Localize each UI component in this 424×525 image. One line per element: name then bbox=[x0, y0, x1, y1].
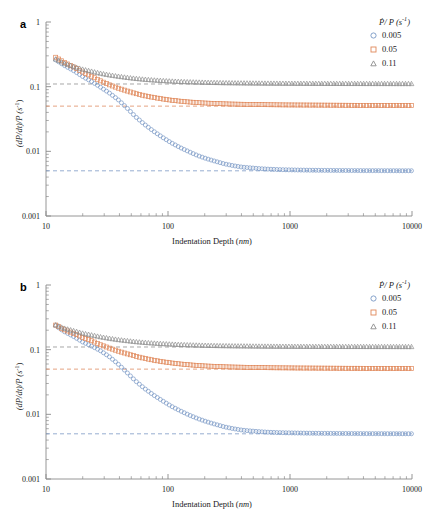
svg-text:1000: 1000 bbox=[282, 222, 298, 231]
x-axis-unit-a: nm bbox=[239, 236, 249, 246]
legend-title-a: Ṗ/ P (s-1) bbox=[379, 16, 410, 27]
legend-title-rest-a: / P ( bbox=[384, 17, 398, 27]
legend-label-005-a: 0.05 bbox=[382, 44, 397, 54]
legend-label-005-b: 0.05 bbox=[382, 307, 397, 317]
svg-text:0.1: 0.1 bbox=[30, 83, 40, 92]
plot-area-a: 10.10.010.00110100100010000 bbox=[0, 0, 424, 262]
x-axis-title-a: Indentation Depth (nm) bbox=[0, 236, 424, 246]
x-axis-close-a: ) bbox=[249, 236, 252, 246]
legend-item-011-b[interactable]: 0.11 bbox=[369, 321, 410, 332]
y-axis-sup-a: -1 bbox=[14, 102, 20, 107]
circle-marker-icon bbox=[369, 31, 378, 40]
svg-text:100: 100 bbox=[162, 222, 174, 231]
svg-text:1: 1 bbox=[36, 281, 40, 290]
legend-title-close-a: ) bbox=[407, 17, 410, 27]
legend-item-011-a[interactable]: 0.11 bbox=[369, 58, 410, 69]
svg-text:10: 10 bbox=[42, 222, 50, 231]
legend-item-005-a[interactable]: 0.05 bbox=[369, 44, 410, 55]
x-axis-title-b: Indentation Depth (nm) bbox=[0, 499, 424, 509]
triangle-marker-icon bbox=[369, 59, 378, 68]
panel-b: b 10.10.010.00110100100010000 Indentatio… bbox=[0, 263, 424, 525]
legend-title-rest-b: / P ( bbox=[384, 280, 398, 290]
legend-a: Ṗ/ P (s-1) 0.005 0.05 0.11 bbox=[369, 16, 410, 72]
svg-text:1: 1 bbox=[36, 18, 40, 27]
y-axis-close-b: ) bbox=[14, 363, 24, 366]
square-marker-icon bbox=[369, 45, 378, 54]
circle-marker-icon bbox=[369, 294, 378, 303]
y-axis-unit-b: s bbox=[14, 371, 24, 374]
legend-label-0005-b: 0.005 bbox=[382, 293, 401, 303]
legend-title-b: Ṗ/ P (s-1) bbox=[379, 279, 410, 290]
legend-title-close-b: ) bbox=[407, 280, 410, 290]
x-axis-title-text-b: Indentation Depth ( bbox=[172, 499, 239, 509]
x-axis-title-text-a: Indentation Depth ( bbox=[172, 236, 239, 246]
svg-text:10000: 10000 bbox=[402, 485, 422, 494]
square-marker-icon bbox=[369, 308, 378, 317]
figure-container: a 10.10.010.00110100100010000 Indentatio… bbox=[0, 0, 424, 525]
x-axis-close-b: ) bbox=[249, 499, 252, 509]
plot-area-b: 10.10.010.00110100100010000 bbox=[0, 263, 424, 525]
legend-label-0005-a: 0.005 bbox=[382, 30, 401, 40]
legend-b: Ṗ/ P (s-1) 0.005 0.05 0.11 bbox=[369, 279, 410, 335]
y-axis-title-text-b: (dP/dt)/P ( bbox=[14, 374, 24, 410]
svg-text:100: 100 bbox=[162, 485, 174, 494]
svg-text:1000: 1000 bbox=[282, 485, 298, 494]
legend-item-005-b[interactable]: 0.05 bbox=[369, 307, 410, 318]
x-axis-unit-b: nm bbox=[239, 499, 249, 509]
triangle-marker-icon bbox=[369, 322, 378, 331]
y-axis-sup-b: -1 bbox=[14, 365, 20, 370]
legend-label-011-a: 0.11 bbox=[382, 58, 397, 68]
legend-item-0005-a[interactable]: 0.005 bbox=[369, 30, 410, 41]
legend-item-0005-b[interactable]: 0.005 bbox=[369, 293, 410, 304]
svg-text:0.01: 0.01 bbox=[26, 147, 40, 156]
svg-text:0.1: 0.1 bbox=[30, 346, 40, 355]
y-axis-title-a: (dP/dt)/P (s-1) bbox=[14, 58, 25, 188]
svg-text:10000: 10000 bbox=[402, 222, 422, 231]
y-axis-title-text-a: (dP/dt)/P ( bbox=[14, 111, 24, 147]
y-axis-close-a: ) bbox=[14, 100, 24, 103]
svg-text:0.01: 0.01 bbox=[26, 410, 40, 419]
svg-text:10: 10 bbox=[42, 485, 50, 494]
y-axis-unit-a: s bbox=[14, 108, 24, 111]
y-axis-title-b: (dP/dt)/P (s-1) bbox=[14, 321, 25, 451]
svg-text:0.001: 0.001 bbox=[22, 475, 40, 484]
legend-pdot-symbol-a: Ṗ bbox=[379, 17, 384, 27]
svg-text:0.001: 0.001 bbox=[22, 212, 40, 221]
panel-a: a 10.10.010.00110100100010000 Indentatio… bbox=[0, 0, 424, 262]
legend-label-011-b: 0.11 bbox=[382, 321, 397, 331]
